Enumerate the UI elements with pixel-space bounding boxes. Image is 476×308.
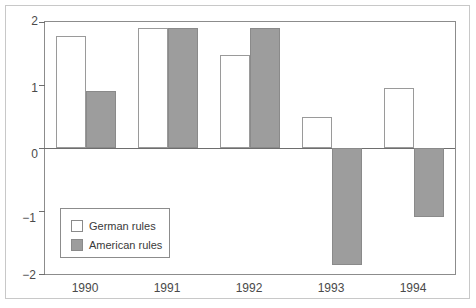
bar-german-1992[interactable] [220, 55, 250, 148]
y-tick-label: 0 [8, 148, 38, 160]
y-tick-mark [39, 22, 45, 23]
bar-german-1990[interactable] [56, 36, 86, 148]
bar-american-1991[interactable] [168, 28, 198, 148]
legend-label: German rules [89, 220, 156, 232]
bar-german-1993[interactable] [302, 117, 332, 149]
y-tick-label: 2 [8, 15, 38, 27]
chart-legend: German rules American rules [60, 208, 170, 258]
legend-swatch-american-icon [71, 239, 83, 251]
x-tick-label: 1994 [378, 281, 448, 295]
bar-german-1994[interactable] [384, 88, 414, 148]
legend-item-american[interactable]: American rules [71, 235, 169, 254]
bar-american-1992[interactable] [250, 28, 280, 148]
legend-label: American rules [89, 239, 162, 251]
y-tick-mark [39, 211, 45, 212]
legend-swatch-german-icon [71, 220, 83, 232]
x-tick-label: 1991 [132, 281, 202, 295]
y-tick-label: −2 [6, 269, 36, 281]
y-tick-mark [39, 274, 45, 275]
bar-american-1990[interactable] [86, 91, 116, 148]
x-tick-label: 1993 [296, 281, 366, 295]
x-tick-label: 1990 [50, 281, 120, 295]
legend-item-german[interactable]: German rules [71, 216, 169, 235]
y-tick-label: 1 [8, 82, 38, 94]
bar-american-1993[interactable] [332, 148, 362, 265]
bar-german-1991[interactable] [138, 28, 168, 148]
zero-baseline [45, 148, 455, 149]
y-tick-label: −1 [6, 212, 36, 224]
y-tick-mark [39, 85, 45, 86]
x-tick-label: 1992 [214, 281, 284, 295]
chart-figure: 2 1 0 −1 −2 [0, 0, 476, 308]
bar-american-1994[interactable] [414, 148, 444, 217]
